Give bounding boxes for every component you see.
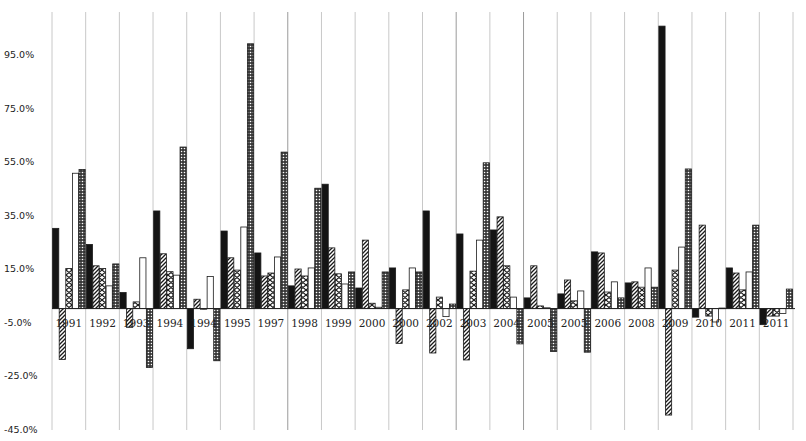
bar-checker bbox=[247, 44, 253, 309]
y-tick-label: -5.0% bbox=[4, 317, 32, 328]
bar-checker bbox=[753, 225, 759, 308]
bar-checker bbox=[652, 287, 658, 308]
bar-chevron bbox=[605, 292, 611, 309]
bar-chevron bbox=[504, 266, 510, 309]
bar-white bbox=[645, 268, 651, 309]
vertical-gridlines bbox=[52, 12, 793, 430]
x-category-label: 1994 bbox=[190, 317, 217, 329]
x-category-label: 2003 bbox=[460, 317, 487, 329]
bar-chevron bbox=[773, 309, 779, 316]
x-category-label: 2006 bbox=[594, 317, 621, 329]
y-tick-label: 55.0% bbox=[4, 156, 34, 167]
bar-checker bbox=[315, 188, 321, 308]
y-tick-label: 15.0% bbox=[4, 263, 34, 274]
bar-white bbox=[342, 284, 348, 309]
bar-solid-black bbox=[120, 293, 126, 309]
bar-diagonal-hatch bbox=[430, 309, 436, 353]
bar-white bbox=[611, 282, 617, 309]
bar-chevron bbox=[234, 270, 240, 309]
bar-solid-black bbox=[693, 309, 699, 318]
bar-diagonal-hatch bbox=[564, 280, 570, 309]
bar-solid-black bbox=[356, 288, 362, 309]
bar-solid-black bbox=[524, 298, 530, 309]
x-category-label: 2005 bbox=[527, 317, 554, 329]
bar-checker bbox=[483, 163, 489, 309]
bar-solid-black bbox=[457, 234, 463, 309]
bar-checker bbox=[618, 298, 624, 309]
x-category-label: 2009 bbox=[662, 317, 689, 329]
bar-diagonal-hatch bbox=[362, 240, 368, 308]
bar-white bbox=[746, 272, 752, 309]
bar-chevron bbox=[672, 270, 678, 309]
bar-chevron bbox=[706, 309, 712, 316]
bar-checker bbox=[551, 309, 557, 352]
bar-chevron bbox=[99, 268, 105, 308]
x-category-label: 1992 bbox=[89, 317, 116, 329]
bar-white bbox=[72, 173, 78, 308]
bar-solid-black bbox=[659, 26, 665, 308]
y-tick-label: 35.0% bbox=[4, 210, 34, 221]
x-category-label: 1995 bbox=[224, 317, 251, 329]
y-axis-tick-labels: 95.0%75.0%55.0%35.0%15.0%-5.0%-25.0%-45.… bbox=[4, 49, 38, 435]
y-tick-label: 75.0% bbox=[4, 103, 34, 114]
x-category-label: 1999 bbox=[325, 317, 352, 329]
bar-diagonal-hatch bbox=[228, 258, 234, 309]
x-category-label: 2011 bbox=[729, 317, 756, 329]
bar-checker bbox=[416, 272, 422, 309]
bar-checker bbox=[348, 272, 354, 309]
bar-chart-plot: 95.0%75.0%55.0%35.0%15.0%-5.0%-25.0%-45.… bbox=[0, 0, 806, 441]
bar-chevron bbox=[739, 290, 745, 309]
bar-checker bbox=[786, 289, 792, 309]
bar-white bbox=[106, 286, 112, 309]
bar-white bbox=[140, 258, 146, 309]
chart: 95.0%75.0%55.0%35.0%15.0%-5.0%-25.0%-45.… bbox=[0, 0, 806, 441]
x-category-label: 2008 bbox=[628, 317, 655, 329]
bar-solid-black bbox=[154, 211, 160, 309]
bar-checker bbox=[180, 147, 186, 309]
x-category-label: 2000 bbox=[392, 317, 419, 329]
bar-white bbox=[578, 291, 584, 309]
bar-chevron bbox=[133, 302, 139, 309]
x-category-label: 2011 bbox=[763, 317, 790, 329]
bar-chevron bbox=[302, 276, 308, 309]
bar-chevron bbox=[571, 301, 577, 309]
x-category-label: 2005 bbox=[561, 317, 588, 329]
bar-solid-black bbox=[625, 283, 631, 309]
bar-solid-black bbox=[389, 268, 395, 309]
y-tick-label: -25.0% bbox=[4, 370, 38, 381]
bar-chevron bbox=[167, 272, 173, 309]
bar-chevron bbox=[436, 297, 442, 309]
bar-solid-black bbox=[592, 252, 598, 309]
x-category-label: 1997 bbox=[258, 317, 285, 329]
bar-white bbox=[173, 275, 179, 308]
bar-diagonal-hatch bbox=[531, 266, 537, 309]
bar-white bbox=[241, 227, 247, 309]
bar-solid-black bbox=[255, 253, 261, 309]
bar-diagonal-hatch bbox=[767, 309, 773, 316]
bar-white bbox=[409, 268, 415, 309]
bar-checker bbox=[281, 152, 287, 308]
y-tick-label: -45.0% bbox=[4, 424, 38, 435]
bar-solid-black bbox=[490, 230, 496, 309]
bar-chevron bbox=[470, 271, 476, 308]
x-category-label: 2004 bbox=[493, 317, 520, 329]
bar-diagonal-hatch bbox=[160, 254, 166, 309]
bar-checker bbox=[382, 272, 388, 309]
bar-checker bbox=[113, 264, 119, 309]
bar-checker bbox=[450, 304, 456, 309]
bar-white bbox=[679, 247, 685, 309]
bar-white bbox=[780, 309, 786, 314]
x-category-label: 2000 bbox=[359, 317, 386, 329]
x-category-label: 1994 bbox=[157, 317, 184, 329]
bar-chevron bbox=[268, 273, 274, 309]
bar-chevron bbox=[369, 303, 375, 308]
x-category-label: 2002 bbox=[426, 317, 453, 329]
bar-solid-black bbox=[288, 286, 294, 309]
bar-checker bbox=[79, 170, 85, 309]
bar-white bbox=[510, 297, 516, 309]
bar-chevron bbox=[403, 290, 409, 309]
bar-white bbox=[477, 240, 483, 308]
bar-white bbox=[207, 277, 213, 309]
bar-diagonal-hatch bbox=[329, 248, 335, 309]
bar-chevron bbox=[335, 274, 341, 309]
